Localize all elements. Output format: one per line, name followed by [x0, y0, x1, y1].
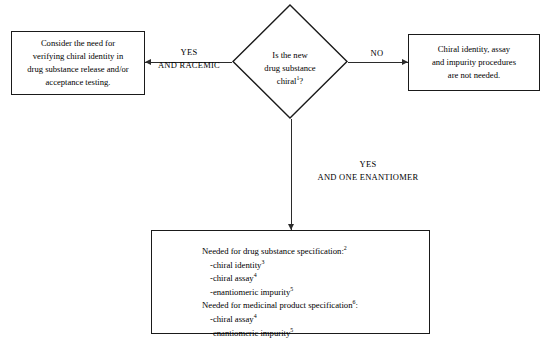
- spec-item: -chiral assay4: [202, 272, 358, 286]
- diamond-shape: [233, 5, 347, 118]
- outcome-box-not-needed: Chiral identity, assay and impurity proc…: [408, 34, 540, 91]
- spec-item-footnote: 3: [261, 259, 264, 265]
- spec-item-text: -chiral assay: [210, 273, 254, 283]
- specification-list: Needed for drug substance specification:…: [202, 245, 358, 340]
- spec-section2-heading-text: Needed for medicinal product specificati…: [202, 300, 353, 310]
- spec-section2-heading: Needed for medicinal product specificati…: [202, 299, 358, 313]
- spec-item: -chiral identity3: [202, 259, 358, 273]
- spec-section1-heading-footnote: 2: [344, 245, 347, 251]
- edge-label-yes-racemic-line2: AND RACEMIC: [150, 59, 228, 72]
- spec-item-footnote: 4: [254, 313, 257, 319]
- edge-label-yes-racemic: YES AND RACEMIC: [150, 46, 228, 71]
- flowchart-canvas: Consider the need for verifying chiral i…: [0, 0, 552, 350]
- spec-section1-heading-text: Needed for drug substance specification:: [202, 246, 344, 256]
- spec-section1-heading: Needed for drug substance specification:…: [202, 245, 358, 259]
- edge-label-no: NO: [355, 47, 399, 60]
- arrowhead-right: [402, 59, 408, 65]
- spec-item-text: -enantiomeric impurity: [210, 328, 290, 338]
- edge-label-yes-racemic-line1: YES: [150, 46, 228, 59]
- spec-item-text: -enantiomeric impurity: [210, 287, 290, 297]
- edge-label-yes-one-line1: YES: [298, 158, 438, 171]
- spec-item-text: -chiral assay: [210, 314, 254, 324]
- spec-section2-heading-tail: :: [355, 300, 357, 310]
- spec-item: -chiral assay4: [202, 313, 358, 327]
- edge-label-yes-one-enantiomer: YES AND ONE ENANTIOMER: [298, 158, 438, 183]
- edge-label-yes-one-line2: AND ONE ENANTIOMER: [298, 171, 438, 184]
- connector-down: [291, 119, 292, 230]
- spec-item-footnote: 4: [254, 272, 257, 278]
- outcome-box-specifications: Needed for drug substance specification:…: [151, 230, 430, 334]
- edge-label-no-line1: NO: [355, 47, 399, 60]
- decision-diamond: Is the new drug substance chiral1?: [232, 4, 348, 119]
- spec-item-text: -chiral identity: [210, 260, 261, 270]
- outcome-box-not-needed-text: Chiral identity, assay and impurity proc…: [426, 43, 522, 83]
- spec-item-footnote: 5: [290, 327, 293, 333]
- connector-right: [348, 62, 408, 63]
- spec-item-footnote: 5: [290, 286, 293, 292]
- outcome-box-racemic-text: Consider the need for verifying chiral i…: [21, 37, 134, 90]
- spec-item: -enantiomeric impurity5: [202, 286, 358, 300]
- spec-item: -enantiomeric impurity5: [202, 327, 358, 341]
- outcome-box-racemic: Consider the need for verifying chiral i…: [11, 31, 145, 95]
